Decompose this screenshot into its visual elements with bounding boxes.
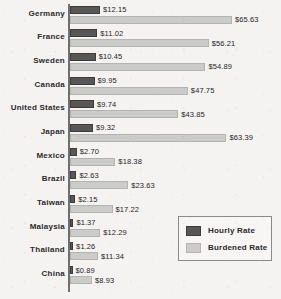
legend-swatch-hourly-rate	[186, 226, 201, 236]
legend-label-burdened-rate: Burdened Rate	[208, 242, 268, 254]
bar-value-label: $1.37	[76, 218, 95, 227]
bar-burdened	[70, 134, 226, 142]
bar-value-label: $11.34	[101, 252, 124, 261]
bar-burdened	[70, 87, 188, 95]
chart-legend: Hourly Rate Burdened Rate	[178, 216, 272, 261]
legend-swatch-burdened-rate	[186, 243, 201, 253]
bar-value-label: $11.02	[100, 29, 123, 38]
bar-value-label: $47.75	[191, 86, 215, 95]
bar-value-label: $12.29	[103, 228, 127, 237]
bar-burdened	[70, 110, 178, 118]
bar-hourly	[70, 124, 93, 132]
category-label: Brazil	[0, 173, 65, 184]
bar-burdened	[70, 276, 92, 284]
category-label: Thailand	[0, 244, 65, 255]
bar-value-label: $17.22	[116, 205, 140, 214]
bar-value-label: $18.38	[118, 157, 142, 166]
chart-row: Sweden$10.45$54.89	[0, 51, 281, 75]
chart-row: Brazil$2.63$23.63	[0, 170, 281, 194]
bar-value-label: $1.26	[76, 242, 95, 251]
bar-value-label: $54.89	[208, 62, 232, 71]
bar-value-label: $9.95	[98, 76, 117, 85]
bar-value-label: $12.15	[103, 5, 127, 14]
bar-group: $9.32$63.39	[70, 122, 281, 146]
bar-group: $9.95$47.75	[70, 75, 281, 99]
bar-value-label: $65.63	[235, 15, 259, 24]
bar-group: $2.70$18.38	[70, 146, 281, 170]
category-label: Sweden	[0, 55, 65, 66]
category-label: United States	[0, 102, 65, 113]
chart-row: Taiwan$2.15$17.22	[0, 194, 281, 218]
chart-row: Germany$12.15$65.63	[0, 4, 281, 28]
bar-group: $9.74$43.85	[70, 99, 281, 123]
bar-value-label: $2.63	[79, 171, 98, 180]
bar-value-label: $56.21	[212, 39, 236, 48]
chart-row: Japan$9.32$63.39	[0, 122, 281, 146]
bar-value-label: $43.85	[181, 110, 205, 119]
bar-value-label: $9.32	[96, 123, 115, 132]
category-label: Malaysia	[0, 221, 65, 232]
bar-hourly	[70, 266, 73, 274]
bar-value-label: $63.39	[229, 133, 253, 142]
category-label: Mexico	[0, 150, 65, 161]
bar-value-label: $8.93	[95, 276, 114, 285]
bar-hourly	[70, 6, 100, 14]
category-label: Germany	[0, 8, 65, 19]
bar-group: $0.89$8.93	[70, 265, 281, 289]
bar-group: $2.63$23.63	[70, 170, 281, 194]
bar-hourly	[70, 53, 96, 61]
bar-value-label: $23.63	[131, 181, 155, 190]
bar-burdened	[70, 63, 205, 71]
bar-group: $10.45$54.89	[70, 51, 281, 75]
bar-burdened	[70, 158, 115, 166]
bar-hourly	[70, 148, 77, 156]
bar-chart: Germany$12.15$65.63France$11.02$56.21Swe…	[0, 0, 281, 299]
bar-value-label: $0.89	[76, 266, 95, 275]
category-label: China	[0, 268, 65, 279]
bar-burdened	[70, 39, 209, 47]
category-label: Japan	[0, 126, 65, 137]
bar-hourly	[70, 195, 75, 203]
category-label: Taiwan	[0, 197, 65, 208]
bar-hourly	[70, 29, 97, 37]
chart-row: China$0.89$8.93	[0, 265, 281, 289]
bar-group: $12.15$65.63	[70, 4, 281, 28]
legend-label-hourly-rate: Hourly Rate	[208, 225, 255, 237]
category-label: Canada	[0, 79, 65, 90]
bar-burdened	[70, 252, 98, 260]
bar-hourly	[70, 77, 95, 85]
chart-row: Canada$9.95$47.75	[0, 75, 281, 99]
bar-value-label: $9.74	[97, 100, 116, 109]
bar-burdened	[70, 16, 232, 24]
category-label: France	[0, 31, 65, 42]
chart-row: Mexico$2.70$18.38	[0, 146, 281, 170]
bar-value-label: $10.45	[99, 52, 123, 61]
bar-hourly	[70, 219, 73, 227]
bar-burdened	[70, 229, 100, 237]
bar-burdened	[70, 205, 113, 213]
bar-value-label: $2.15	[78, 195, 97, 204]
bar-group: $11.02$56.21	[70, 28, 281, 52]
bar-hourly	[70, 171, 76, 179]
chart-row: France$11.02$56.21	[0, 28, 281, 52]
bar-value-label: $2.70	[80, 147, 99, 156]
chart-row: United States$9.74$43.85	[0, 99, 281, 123]
bar-hourly	[70, 100, 94, 108]
bar-hourly	[70, 242, 73, 250]
bar-group: $2.15$17.22	[70, 194, 281, 218]
bar-burdened	[70, 181, 128, 189]
